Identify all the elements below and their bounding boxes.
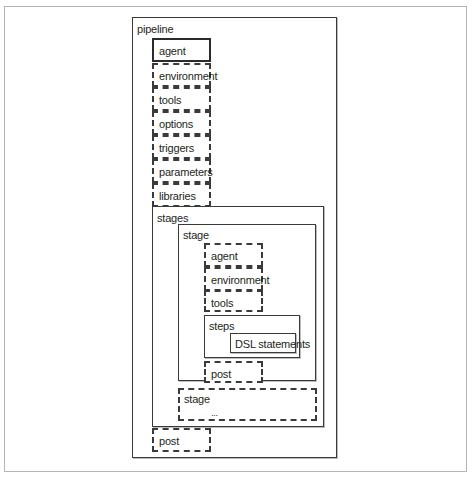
- stage-post-label: post: [211, 368, 231, 380]
- stage-agent-block: agent: [204, 243, 263, 267]
- pipeline-triggers-label: triggers: [159, 142, 194, 154]
- pipeline-post-block: post: [152, 428, 211, 452]
- stages-label: stages: [157, 212, 188, 224]
- additional-stage-block: stage ...: [178, 388, 317, 421]
- pipeline-triggers-block: triggers: [152, 135, 211, 159]
- pipeline-tools-label: tools: [159, 94, 181, 106]
- stage-environment-block: environment: [204, 267, 263, 291]
- stage-environment-label: environment: [211, 274, 269, 286]
- pipeline-libraries-label: libraries: [159, 190, 196, 202]
- pipeline-environment-label: environment: [159, 70, 217, 82]
- pipeline-options-label: options: [159, 118, 193, 130]
- dsl-statements-label: DSL statements: [235, 338, 310, 350]
- pipeline-post-label: post: [159, 435, 179, 447]
- stage-post-block: post: [204, 361, 263, 383]
- dsl-statements-block: DSL statements: [230, 333, 296, 353]
- additional-stage-ellipsis: ...: [211, 407, 218, 419]
- stage-tools-label: tools: [211, 297, 233, 309]
- pipeline-label: pipeline: [137, 23, 173, 35]
- stage-agent-label: agent: [211, 250, 238, 262]
- stage-tools-block: tools: [204, 290, 263, 312]
- stage-label: stage: [183, 229, 209, 241]
- pipeline-options-block: options: [152, 111, 211, 135]
- steps-label: steps: [209, 320, 234, 332]
- pipeline-agent-label: agent: [159, 45, 186, 57]
- pipeline-parameters-label: parameters: [159, 166, 213, 178]
- pipeline-parameters-block: parameters: [152, 159, 211, 183]
- pipeline-tools-block: tools: [152, 87, 211, 111]
- additional-stage-label: stage: [184, 393, 210, 405]
- pipeline-agent-block: agent: [152, 38, 211, 62]
- pipeline-libraries-block: libraries: [152, 183, 211, 207]
- pipeline-environment-block: environment: [152, 63, 211, 87]
